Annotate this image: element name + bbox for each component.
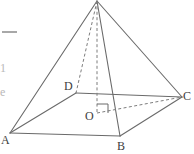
edge-d-c [76, 93, 182, 97]
geometry-figure: 1 e A B C D O [0, 0, 194, 154]
vertex-label-c: C [183, 90, 191, 102]
solid-edge-group [10, 1, 182, 136]
edge-a-d [10, 93, 76, 133]
edge-apex-b [97, 1, 120, 136]
vertex-label-b: B [117, 140, 125, 152]
vertex-label-o: O [85, 110, 94, 122]
edge-a-b [10, 133, 120, 136]
edge-apex-a [10, 1, 97, 133]
margin-glyph: 1 [0, 62, 6, 74]
margin-glyph: e [0, 86, 5, 98]
edge-apex-d [76, 1, 97, 93]
vertex-label-d: D [64, 80, 73, 92]
edge-apex-c [97, 1, 182, 97]
pyramid-diagram-svg [0, 0, 194, 154]
margin-rule [2, 31, 17, 33]
vertex-label-a: A [1, 134, 10, 146]
